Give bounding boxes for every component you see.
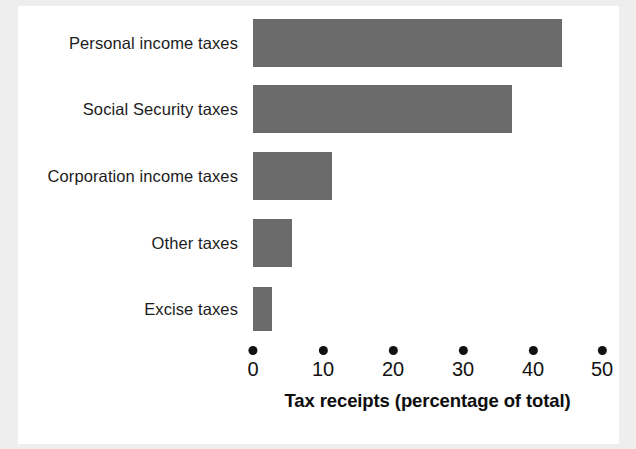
- x-tick-50: 50: [591, 346, 613, 379]
- bar-excise-taxes: [253, 287, 272, 331]
- figure: Personal income taxes Social Security ta…: [0, 0, 636, 449]
- x-tick-label: 20: [382, 359, 404, 379]
- x-tick-20: 20: [382, 346, 404, 379]
- tick-dot-icon: [389, 346, 398, 355]
- bar-row: Excise taxes: [0, 287, 636, 331]
- x-axis-title: Tax receipts (percentage of total): [253, 390, 602, 412]
- x-tick-30: 30: [452, 346, 474, 379]
- bar-row: Social Security taxes: [0, 85, 636, 133]
- tick-dot-icon: [598, 346, 607, 355]
- tick-dot-icon: [249, 346, 258, 355]
- category-label-other-taxes: Other taxes: [0, 234, 238, 253]
- category-label-social-security-taxes: Social Security taxes: [0, 100, 238, 119]
- category-label-personal-income-taxes: Personal income taxes: [0, 34, 238, 53]
- bar-row: Other taxes: [0, 219, 636, 267]
- tick-dot-icon: [529, 346, 538, 355]
- bar-corporation-income-taxes: [253, 152, 332, 200]
- x-tick-label: 0: [247, 359, 258, 379]
- x-tick-0: 0: [247, 346, 258, 379]
- category-label-corporation-income-taxes: Corporation income taxes: [0, 167, 238, 186]
- bar-social-security-taxes: [253, 85, 512, 133]
- bar-row: Corporation income taxes: [0, 152, 636, 200]
- x-tick-label: 40: [522, 359, 544, 379]
- x-axis: 0 10 20 30 40 50 Tax receipts (: [0, 346, 636, 446]
- x-tick-label: 30: [452, 359, 474, 379]
- tick-dot-icon: [459, 346, 468, 355]
- x-tick-label: 10: [312, 359, 334, 379]
- bar-chart: Personal income taxes Social Security ta…: [0, 0, 636, 449]
- bar-row: Personal income taxes: [0, 19, 636, 67]
- tick-dot-icon: [319, 346, 328, 355]
- category-label-excise-taxes: Excise taxes: [0, 300, 238, 319]
- x-tick-10: 10: [312, 346, 334, 379]
- x-tick-label: 50: [591, 359, 613, 379]
- bar-personal-income-taxes: [253, 19, 562, 67]
- x-tick-40: 40: [522, 346, 544, 379]
- bar-other-taxes: [253, 219, 292, 267]
